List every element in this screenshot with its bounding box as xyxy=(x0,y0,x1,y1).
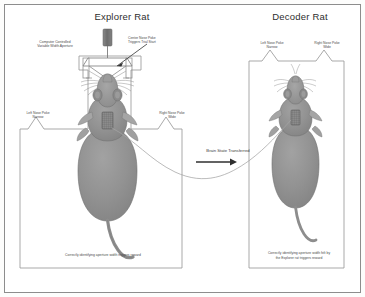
explorer-right-poke-line2: Wide xyxy=(147,115,197,119)
figure-root: Explorer Rat Decoder Rat Computer Contro… xyxy=(0,0,365,297)
brain-state-transfer-arrow xyxy=(196,159,237,166)
aperture-label: Computer Controlled Variable Width Apert… xyxy=(22,40,88,49)
aperture-label-line2: Variable Width Aperture xyxy=(22,44,88,48)
explorer-right-nose-poke-label: Right Nose Poke Wide xyxy=(147,111,197,120)
decoder-rat xyxy=(269,64,322,241)
explorer-caption: Correctly identifying aperture width tri… xyxy=(28,253,178,258)
decoder-caption: Correctly identifying aperture width fel… xyxy=(246,251,352,260)
decoder-title: Decoder Rat xyxy=(248,11,352,22)
decoder-right-poke-line2: Wide xyxy=(304,45,350,49)
decoder-caption-line2: the Explorer rat triggers reward xyxy=(246,256,352,261)
decoder-left-nose-poke-label: Left Nose Poke Narrow xyxy=(249,41,295,50)
center-nose-poke-label: Center Nose Poke Triggers Trial Start xyxy=(128,36,190,45)
explorer-left-poke-line2: Narrow xyxy=(14,115,62,119)
decoder-left-poke-line2: Narrow xyxy=(249,45,295,49)
explorer-title: Explorer Rat xyxy=(62,11,182,22)
decoder-right-nose-poke-label: Right Nose Poke Wide xyxy=(304,41,350,50)
center-nose-poke-line2: Triggers Trial Start xyxy=(128,40,190,44)
explorer-rat xyxy=(77,74,138,258)
explorer-left-nose-poke-label: Left Nose Poke Narrow xyxy=(14,111,62,120)
brain-state-transferred-label: Brain State Transferred xyxy=(192,148,264,153)
